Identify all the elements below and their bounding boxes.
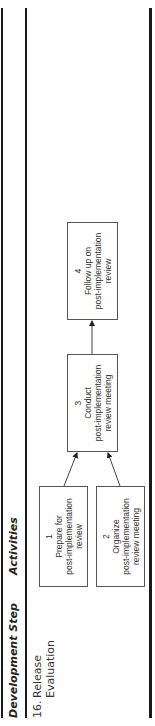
activity-box-1: 1 Prepare for post-implementation review: [39, 486, 88, 587]
activity-text-line: post-implementation: [93, 233, 103, 310]
activity-number: 4: [73, 269, 83, 274]
activity-text-line: Prepare for: [54, 515, 64, 558]
activity-text-line: Follow up on: [83, 247, 93, 295]
activity-number: 2: [101, 534, 111, 539]
arrow-2-to-3: [108, 453, 120, 486]
activity-text-line: Conduct: [83, 387, 93, 419]
arrow-1-to-3: [64, 453, 77, 486]
activity-text-line: review: [74, 524, 84, 549]
rotated-page: Development Step Activities 16.Release E…: [0, 0, 155, 726]
activity-number: 3: [73, 401, 83, 406]
activity-text-line: post-implementation: [64, 498, 74, 575]
activity-box-2: 2 Organize post-implementation review me…: [96, 486, 145, 587]
activity-box-4: 4 Follow up on post-implementation revie…: [67, 222, 118, 320]
activity-box-3: 3 Conduct post-implementation review mee…: [67, 354, 118, 452]
activity-text-line: review meeting: [103, 374, 113, 431]
activity-text-line: post-implementation: [93, 365, 103, 442]
activity-text-line: post-implementation: [121, 498, 131, 575]
activity-text-line: review: [103, 259, 113, 284]
activity-text-line: Organize: [111, 519, 121, 554]
activity-number: 1: [44, 534, 54, 539]
activity-text-line: review meeting: [131, 508, 141, 565]
